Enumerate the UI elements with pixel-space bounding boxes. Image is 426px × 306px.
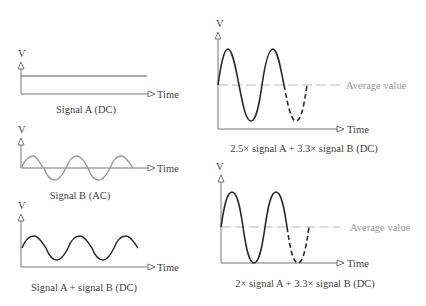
y-axis-label: V xyxy=(216,161,224,172)
panel-scaled-2-5: V Time Average value 2.5× signal A + 3.3… xyxy=(216,18,406,155)
caption: 2× signal A + 3.3× signal B (DC) xyxy=(235,278,375,290)
panel-signal-b: V Time Signal B (AC) xyxy=(18,124,179,202)
caption: Signal A + signal B (DC) xyxy=(31,282,137,294)
y-axis-label: V xyxy=(216,18,224,29)
caption: Signal B (AC) xyxy=(50,190,111,202)
x-axis-label: Time xyxy=(347,258,369,269)
x-axis-label: Time xyxy=(347,124,369,135)
scaled-signal-wave-dashed xyxy=(284,85,307,121)
panel-scaled-2: V Time Average value 2× signal A + 3.3× … xyxy=(216,161,410,290)
average-value-label: Average value xyxy=(350,222,410,233)
panel-signal-a-plus-b: V Time Signal A + signal B (DC) xyxy=(18,200,179,294)
panel-signal-a: V Time Signal A (DC) xyxy=(18,48,179,116)
x-axis-label: Time xyxy=(157,89,179,100)
x-axis-label: Time xyxy=(157,262,179,273)
signals-diagram: V Time Signal A (DC) V Time Signal B (AC… xyxy=(0,0,426,306)
y-axis-label: V xyxy=(18,124,26,135)
y-axis-label: V xyxy=(18,200,26,211)
scaled-signal-wave-dashed xyxy=(287,227,309,263)
y-axis-label: V xyxy=(18,48,26,59)
x-axis-label: Time xyxy=(157,163,179,174)
caption: 2.5× signal A + 3.3× signal B (DC) xyxy=(230,143,378,155)
average-value-label: Average value xyxy=(346,80,406,91)
caption: Signal A (DC) xyxy=(56,104,117,116)
combined-signal-wave xyxy=(22,236,138,260)
